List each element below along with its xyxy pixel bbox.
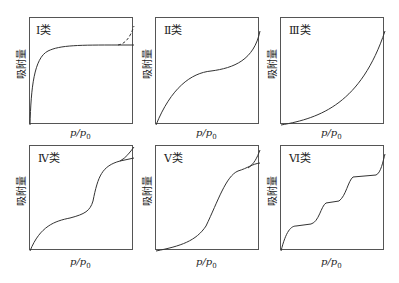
y-axis-label: 吸附量 bbox=[264, 49, 279, 79]
panel-title: Ⅵ类 bbox=[289, 149, 311, 165]
plot-box-iii: Ⅲ类 bbox=[280, 17, 384, 124]
panel-title: Ⅳ类 bbox=[38, 149, 60, 165]
y-axis-label: 吸附量 bbox=[264, 176, 279, 206]
y-axis-label: 吸附量 bbox=[139, 176, 154, 206]
x-axis-label: p/p0 bbox=[70, 256, 91, 270]
x-axis-label: p/p0 bbox=[70, 127, 91, 141]
plot-box-i: Ⅰ类 bbox=[29, 17, 133, 124]
panel-title: Ⅴ类 bbox=[164, 149, 183, 165]
plot-box-v: Ⅴ类 bbox=[155, 145, 259, 250]
plot-box-iv: Ⅳ类 bbox=[29, 145, 133, 250]
x-axis-label: p/p0 bbox=[196, 256, 217, 270]
panel-title: Ⅰ类 bbox=[36, 21, 51, 37]
panel-title: Ⅱ类 bbox=[164, 21, 182, 37]
x-axis-label: p/p0 bbox=[321, 256, 342, 270]
panel-title: Ⅲ类 bbox=[289, 21, 311, 37]
plot-box-vi: Ⅵ类 bbox=[280, 145, 384, 250]
plot-box-ii: Ⅱ类 bbox=[155, 17, 259, 124]
x-axis-label: p/p0 bbox=[196, 127, 217, 141]
y-axis-label: 吸附量 bbox=[139, 49, 154, 79]
x-axis-label: p/p0 bbox=[321, 127, 342, 141]
y-axis-label: 吸附量 bbox=[13, 176, 28, 206]
y-axis-label: 吸附量 bbox=[13, 49, 28, 79]
